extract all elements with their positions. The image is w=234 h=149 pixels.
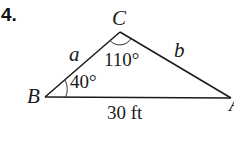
- side-c-line: [45, 97, 231, 98]
- angle-c-label: 110°: [104, 50, 139, 69]
- side-b-label: b: [174, 40, 185, 61]
- vertex-a-label: A: [229, 94, 234, 115]
- angle-b-label: 40°: [70, 72, 97, 91]
- angle-b-arc: [65, 80, 67, 97]
- vertex-c-label: C: [112, 8, 126, 29]
- angle-c-arc: [110, 39, 131, 45]
- side-a-label: a: [69, 44, 80, 65]
- side-c-label: 30 ft: [107, 103, 142, 122]
- vertex-b-label: B: [27, 86, 40, 107]
- triangle-diagram: 4. C B A a b 110° 40° 30 ft: [0, 0, 234, 149]
